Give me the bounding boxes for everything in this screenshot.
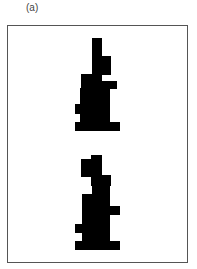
silhouette-block — [80, 88, 110, 105]
silhouette-block — [92, 56, 111, 75]
lower-silhouette — [75, 155, 120, 250]
silhouette-block — [82, 206, 120, 215]
silhouette-block — [81, 81, 117, 89]
silhouette-block — [81, 74, 102, 82]
silhouette-block — [80, 113, 110, 123]
silhouette-block — [82, 214, 110, 225]
silhouette-block — [82, 194, 110, 207]
silhouette-block — [82, 232, 110, 242]
silhouette-block — [75, 104, 110, 114]
upper-silhouette — [75, 38, 120, 131]
silhouette-block — [91, 175, 111, 186]
silhouette-block — [75, 224, 110, 233]
silhouette-block — [81, 159, 102, 177]
figure-canvas — [0, 0, 197, 269]
silhouette-block — [92, 38, 102, 57]
silhouette-block — [75, 241, 120, 250]
silhouette-block — [92, 185, 110, 195]
silhouette-block — [75, 122, 120, 131]
